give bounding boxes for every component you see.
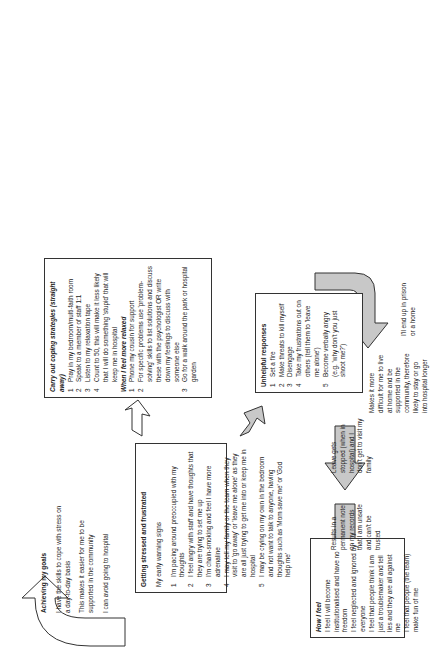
consequence-4: I'll end up in prison or a home <box>400 276 418 336</box>
list-item: 5Become verbally angry (e.g. 'why don't … <box>322 299 348 387</box>
list-item: 2I feel angry with staff and have though… <box>187 449 205 587</box>
list-item: 4Count to 50, this will make it less lik… <box>93 264 119 392</box>
list-item: 4I may tell my family or the team when t… <box>223 449 258 587</box>
feel-line: I feel neglected and ignored by everyone <box>350 544 368 632</box>
feel-line: I feel I will become institutionalised a… <box>324 544 350 632</box>
achieving-title: Achieving my goals <box>40 503 49 613</box>
achieving-line: I can avoid going to hospital <box>102 503 111 613</box>
list-item: 3Listen to my relaxation tape <box>84 264 93 392</box>
arrow-to-unhelpful-icon <box>240 406 265 436</box>
unhelpful-title: Unhelpful responses <box>260 299 269 387</box>
consequence-2: Leave gets stopped (when in hospital) an… <box>330 418 374 473</box>
list-item: 1Set a fire <box>269 299 278 387</box>
coping-title: Carry out coping strategies (straight aw… <box>49 264 67 392</box>
consequence-3: Makes it more difficult for me to live a… <box>368 353 430 413</box>
list-item: 3Go for a walk around the park or hospit… <box>181 264 199 392</box>
achieving-line: This makes it easier for me to be suppor… <box>78 503 96 613</box>
list-item: 3I'm chain-smoking and feel I have more … <box>205 449 223 587</box>
stressed-box: Getting stressed and frustrated My early… <box>135 443 227 593</box>
achieving-line: I have the skills to cope with stress on… <box>55 503 73 613</box>
list-item: 2Speak to a member of staff 1:1 <box>75 264 84 392</box>
feel-line: I feel that people think I am just a tro… <box>368 544 403 632</box>
list-item: 2For specific problems use 'problem-solv… <box>137 264 181 392</box>
achieving-goals: Achieving my goals I have the skills to … <box>40 503 111 613</box>
consequence-1: Results in a permanent note on my record… <box>330 500 383 550</box>
how-i-feel-box: How I feel I feel I will become institut… <box>310 538 405 638</box>
coping-subtitle: When I feel more relaxed <box>120 264 129 392</box>
list-item: 5I may be crying on my own in the bedroo… <box>258 449 293 587</box>
list-item: 1Phone my cousin for support <box>128 264 137 392</box>
feel-line: I feel that people (the team) make fun o… <box>403 544 421 632</box>
list-item: 3Disengage <box>286 299 295 387</box>
how-i-feel-title: How I feel <box>315 544 324 632</box>
coping-box: Carry out coping strategies (straight aw… <box>44 258 212 398</box>
unhelpful-box: Unhelpful responses 1Set a fire 2Make th… <box>255 293 363 393</box>
list-item: 4Take my frustrations out on others (tel… <box>295 299 321 387</box>
arrow-to-coping-icon <box>125 400 150 436</box>
list-item: 1I'm pacing around preoccupied with my t… <box>170 449 188 587</box>
stressed-subtitle: My early warning signs <box>155 449 164 587</box>
stressed-title: Getting stressed and frustrated <box>140 449 149 587</box>
list-item: 2Make threats to kill myself <box>278 299 287 387</box>
list-item: 1Pray in my bedroom/multi-faith room <box>67 264 76 392</box>
